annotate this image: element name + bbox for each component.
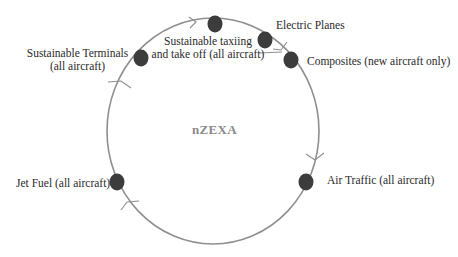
node-sustainable-taxiing	[208, 16, 223, 33]
node-sustainable-terminals	[134, 50, 149, 67]
node-composites	[284, 52, 299, 69]
label-composites: Composites (new aircraft only)	[307, 55, 450, 68]
label-air-traffic: Air Traffic (all aircraft)	[327, 174, 434, 187]
label-line: Sustainable taxiing	[148, 35, 268, 48]
label-line: and take off (all aircraft)	[148, 48, 268, 61]
label-sustainable-taxiing: Sustainable taxiing and take off (all ai…	[148, 35, 268, 61]
arrow-icon-top	[189, 17, 196, 28]
node-air-traffic	[299, 174, 314, 191]
arrow-icon-left	[108, 81, 131, 88]
label-sustainable-terminals: Sustainable Terminals (all aircraft)	[20, 47, 135, 73]
label-line: (all aircraft)	[20, 60, 135, 73]
center-label: nZEXA	[192, 122, 237, 138]
label-line: Sustainable Terminals	[20, 47, 135, 60]
node-jet-fuel	[110, 174, 125, 191]
label-electric-planes: Electric Planes	[276, 19, 345, 32]
label-jet-fuel: Jet Fuel (all aircraft)	[16, 177, 110, 190]
